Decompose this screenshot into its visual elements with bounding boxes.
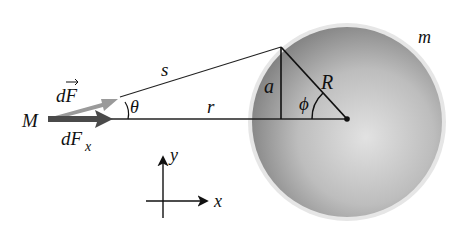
label-a: a (264, 75, 274, 97)
coordinate-axes (146, 158, 206, 218)
sphere (248, 23, 446, 221)
gravity-sphere-diagram: M dF dF x θ s r a R ϕ m y x (0, 0, 455, 237)
label-dFx-sub: x (84, 139, 92, 154)
label-y-axis: y (168, 145, 178, 165)
label-theta: θ (130, 97, 139, 117)
theta-arc (125, 102, 129, 119)
label-r: r (207, 96, 215, 117)
sphere-center-dot (344, 116, 350, 122)
label-M: M (21, 110, 39, 131)
label-s: s (161, 59, 168, 80)
label-dF: dF (56, 85, 78, 106)
label-R: R (320, 71, 333, 93)
label-m: m (418, 27, 431, 47)
label-dFx: dF (61, 128, 83, 149)
label-phi: ϕ (299, 93, 309, 114)
label-x-axis: x (213, 191, 222, 211)
